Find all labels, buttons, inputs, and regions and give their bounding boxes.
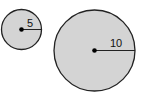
large-radius-label: 10	[110, 37, 122, 49]
small-circle: 5	[2, 10, 42, 50]
circles-diagram: 5 10	[0, 0, 146, 97]
large-circle: 10	[54, 10, 135, 91]
small-radius-label: 5	[27, 17, 33, 29]
small-center-dot	[19, 27, 24, 32]
large-center-dot	[92, 48, 97, 53]
